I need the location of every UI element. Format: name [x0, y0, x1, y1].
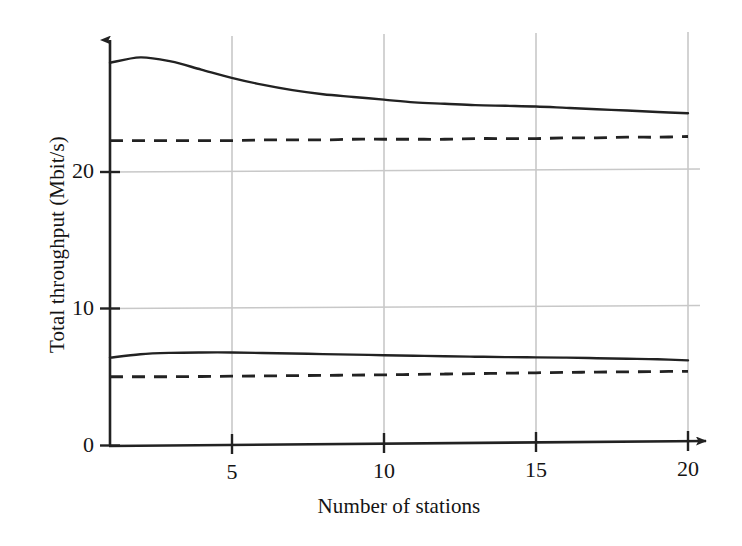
gridlines-horizontal: [110, 169, 700, 309]
x-axis-label: Number of stations: [181, 494, 617, 519]
series-upper-solid: [110, 57, 688, 113]
ytick-label-20: 20: [48, 158, 94, 184]
gridlines-vertical: [232, 32, 688, 445]
xtick-label-10: 10: [361, 458, 407, 484]
ytick-label-0: 0: [48, 432, 94, 458]
xtick-label-5: 5: [209, 459, 255, 485]
series-upper-dashed: [110, 137, 688, 141]
y-axis-label: Total throughput (Mbit/s): [45, 80, 70, 410]
xtick-label-15: 15: [513, 457, 559, 483]
series-lower-dashed: [110, 371, 688, 376]
series-lower-solid: [110, 352, 688, 360]
gridline-y-10: [110, 306, 700, 309]
ytick-label-10: 10: [48, 295, 94, 321]
data-series-layer: [110, 57, 688, 376]
xtick-label-20: 20: [665, 456, 711, 482]
x-axis-line: [109, 441, 706, 446]
chart-figure: Total throughput (Mbit/s) Number of stat…: [0, 0, 742, 546]
gridline-y-20: [110, 169, 700, 172]
